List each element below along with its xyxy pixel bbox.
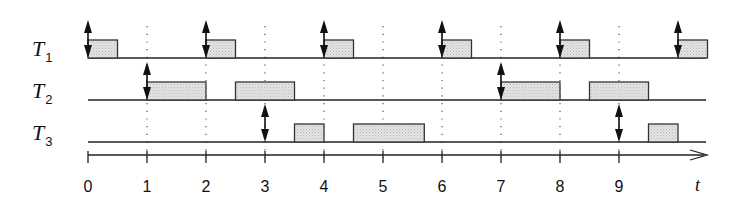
tick-label: 4 [320,178,329,195]
release-arrow-icon [615,104,623,142]
tick-label: 9 [615,178,624,195]
task-label-t3: T3 [32,120,52,149]
execution-block [442,40,472,58]
execution-block [206,40,236,58]
task-row-1 [84,20,708,58]
svg-text:T3: T3 [32,120,52,149]
execution-block [678,40,708,58]
svg-text:T2: T2 [32,78,52,107]
tick-label: 6 [438,178,447,195]
tick-label: 7 [497,178,506,195]
tick-label: 3 [261,178,270,195]
tick-label: 2 [202,178,211,195]
execution-block [649,124,679,142]
task-label-t1: T1 [32,36,52,65]
schedule-diagram: T1 T2 T3 t 0123456789 [0,0,746,204]
tick-label: 1 [143,178,152,195]
execution-block [324,40,354,58]
execution-block [560,40,590,58]
tick-label: 5 [379,178,388,195]
task-label-t2: T2 [32,78,52,107]
tick-label: 8 [556,178,565,195]
execution-block [88,40,118,58]
execution-block [501,82,560,100]
execution-block [295,124,325,142]
axis-label: t [695,175,701,195]
execution-block [147,82,206,100]
release-arrow-icon [261,104,269,142]
axis-ticks: 0123456789 [84,151,624,195]
execution-block [354,124,425,142]
task-row-3 [88,104,706,142]
tasks-layer [84,20,708,142]
execution-block [590,82,649,100]
tick-label: 0 [84,178,93,195]
execution-block [236,82,295,100]
task-row-2 [88,62,706,100]
svg-text:T1: T1 [32,36,52,65]
